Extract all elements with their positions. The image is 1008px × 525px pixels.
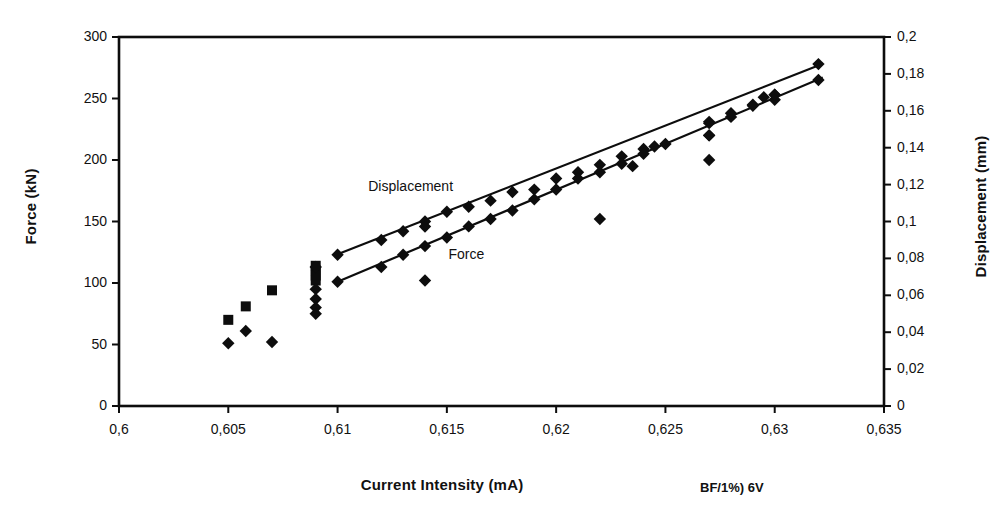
y-tick-label-right: 0,12 [897,176,967,192]
data-point [331,276,343,288]
series-displacement [223,58,824,325]
y-tick-label-right: 0,2 [897,28,967,44]
y-tick-label-right: 0,06 [897,286,967,302]
data-point [223,315,233,325]
x-tick-label: 0,63 [730,421,820,437]
data-point [703,129,715,141]
chart-annotation: BF/1%) 6V [700,480,764,495]
x-tick-label: 0,635 [839,421,929,437]
data-point [463,201,475,213]
y-tick-label-right: 0,18 [897,65,967,81]
data-point [266,336,278,348]
plot-frame [119,37,884,406]
trendline-displacement [338,64,823,255]
y-tick-label-left: 50 [39,336,107,352]
series-force [222,74,825,350]
y-tick-label-right: 0,14 [897,139,967,155]
y-tick-label-left: 250 [39,90,107,106]
y-axis-right-title: Displacement (mm) [972,112,989,302]
x-tick-label: 0,605 [183,421,273,437]
x-tick-label: 0,6 [74,421,164,437]
data-point [812,58,824,70]
data-point [463,220,475,232]
data-point [550,183,562,195]
y-tick-label-left: 100 [39,274,107,290]
data-point [626,160,638,172]
y-tick-label-left: 150 [39,213,107,229]
chart-figure: Force (kN) Displacement (mm) Current Int… [0,0,1008,525]
y-axis-left-title: Force (kN) [22,137,39,277]
data-point [812,74,824,86]
x-tick-label: 0,625 [620,421,710,437]
x-tick-label: 0,62 [511,421,601,437]
y-tick-label-left: 300 [39,28,107,44]
y-tick-label-right: 0,1 [897,213,967,229]
data-point [241,301,251,311]
data-point [594,166,606,178]
data-point [528,193,540,205]
data-point [594,213,606,225]
series-inline-label-force: Force [396,246,536,262]
data-point [331,249,343,261]
y-tick-label-right: 0,02 [897,360,967,376]
data-point [240,325,252,337]
y-tick-label-left: 0 [39,397,107,413]
data-point [441,206,453,218]
x-tick-label: 0,615 [402,421,492,437]
x-axis-title: Current Intensity (mA) [282,476,602,493]
series-inline-label-displacement: Displacement [341,178,481,194]
data-point [550,172,562,184]
series-layer [222,58,825,350]
y-tick-label-right: 0 [897,397,967,413]
chart-canvas [0,0,1008,525]
y-tick-label-right: 0,08 [897,249,967,265]
data-point [419,274,431,286]
y-tick-label-left: 200 [39,151,107,167]
x-tick-label: 0,61 [293,421,383,437]
y-tick-label-right: 0,04 [897,323,967,339]
axes-layer [119,37,884,406]
data-point [267,285,277,295]
data-point [222,337,234,349]
data-point [703,154,715,166]
y-tick-label-right: 0,16 [897,102,967,118]
